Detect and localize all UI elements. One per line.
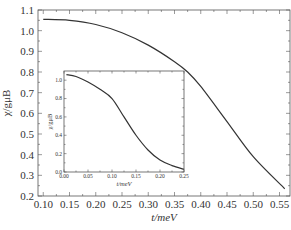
main-xtick-label: 0.15 [60,198,80,210]
main-xlabel: t/meV [151,211,178,223]
inset-ytick-label: 0.6 [55,114,62,120]
main-xtick-label: 0.40 [191,198,211,210]
main-xtick-label: 0.10 [34,198,54,210]
main-ytick-label: 0.5 [20,128,34,140]
main-xtick-label: 0.55 [270,198,290,210]
main-ytick-label: 0.6 [20,107,34,119]
inset-xtick-label: 0.15 [131,173,141,179]
inset-xtick-label: 0.10 [107,173,117,179]
main-ytick-label: 0.9 [20,45,34,57]
inset-ytick-label: 0.0 [55,169,62,175]
chart-svg: 0.100.150.200.250.300.350.400.450.500.55… [0,0,291,230]
inset-ytick-label: 0.8 [55,95,62,101]
inset-xtick-label: 0.05 [83,173,93,179]
inset-xtick-label: 0.25 [179,173,189,179]
main-xtick-label: 0.25 [112,198,132,210]
main-xtick-label: 0.45 [217,198,237,210]
main-ytick-label: 0.4 [20,149,34,161]
inset-ytick-label: 0.4 [55,132,62,138]
main-ytick-label: 0.7 [20,87,34,99]
inset-ylabel: χ/gμB [46,113,53,129]
inset-plot-area [64,71,184,172]
main-ytick-label: 0.2 [20,190,34,202]
inset-xlabel: t/meV [116,180,132,187]
main-xtick-label: 0.20 [86,198,106,210]
main-ytick-label: 0.8 [20,66,34,78]
main-xtick-label: 0.35 [165,198,185,210]
inset-ytick-label: 0.2 [55,151,62,157]
main-xtick-label: 0.50 [244,198,264,210]
inset-xtick-label: 0.20 [155,173,165,179]
inset-ytick-label: 1.0 [55,77,62,83]
chart: 0.100.150.200.250.300.350.400.450.500.55… [0,0,291,230]
main-ylabel: χ/gμB [0,90,12,118]
main-ytick-label: 1.0 [20,25,34,37]
main-ytick-label: 0.3 [20,169,34,181]
inset-plot: 0.000.050.100.150.200.250.00.20.40.60.81… [46,71,189,187]
main-ytick-label: 1.1 [20,4,34,16]
main-xtick-label: 0.30 [139,198,159,210]
